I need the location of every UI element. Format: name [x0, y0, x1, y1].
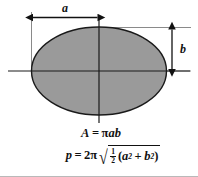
radicand-group: 1 2 ( a 2 + b 2 ) [108, 145, 160, 165]
formula-block: A = π a b p = 2 π √ 1 2 ( a 2 + [0, 125, 198, 177]
area-b-symbol: b [115, 126, 121, 141]
fraction-denominator: 2 [110, 156, 116, 165]
semi-major-label: a [62, 1, 68, 15]
area-symbol: A [81, 126, 89, 141]
perimeter-pi-symbol: π [90, 148, 97, 163]
perimeter-formula: p = 2 π √ 1 2 ( a 2 + b 2 ) [0, 142, 198, 168]
close-paren: ) [154, 149, 158, 164]
pi-symbol: π [102, 126, 109, 141]
plus-sign: + [132, 149, 144, 164]
fraction-numerator: 1 [110, 148, 116, 156]
area-equals-sign: = [89, 126, 101, 141]
area-formula: A = π a b [0, 125, 198, 142]
perimeter-equals-sign: = [72, 148, 84, 163]
square-root-group: √ 1 2 ( a 2 + b 2 ) [98, 145, 160, 165]
semi-minor-label: b [180, 42, 186, 56]
radical-sign-icon: √ [99, 147, 108, 167]
one-half-fraction: 1 2 [110, 148, 116, 165]
ellipse-figure-panel: a b A = π a b p = 2 π √ 1 2 [0, 0, 198, 177]
